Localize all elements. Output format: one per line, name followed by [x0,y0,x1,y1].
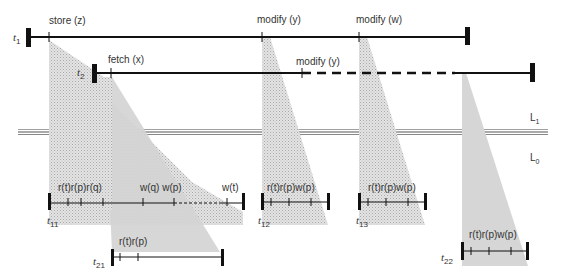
t21-label: t21 [93,255,106,270]
transaction-t1: t1 store (z) modify (y) modify (w) [13,14,470,47]
t13-projection [359,37,425,225]
level-label-l0: L0 [530,152,540,165]
op-fetch-x: fetch (x) [108,54,144,65]
op-modify-y-t1: modify (y) [257,14,301,25]
t12-end-marker [327,193,330,210]
t11-begin-marker [48,193,51,210]
t1-end-marker [465,27,470,45]
level-label-l1: L1 [530,112,540,125]
op-modify-w: modify (w) [356,14,402,25]
t11-ops-reads: r(t)r(p)r(q) [58,182,102,193]
t13-ops: r(t)r(p)w(p) [368,182,416,193]
t21-ops: r(t)r(p) [119,236,147,247]
t22-end-marker [526,242,529,260]
t11-ops-writes: w(q) w(p) [139,182,182,193]
op-modify-y-t2: modify (y) [296,56,340,67]
t22-label: t22 [441,251,454,266]
t1-label: t1 [13,31,21,46]
t2-end-marker [530,63,535,82]
t12-ops: r(t)r(p)w(p) [267,182,315,193]
t21-end-marker [221,249,224,266]
op-store-z: store (z) [49,15,86,26]
t22-ops: r(t)r(p)w(p) [469,229,517,240]
t13-end-marker [424,193,427,210]
t11-end-marker [242,193,245,210]
t11-ops-write-t: w(t) [221,182,239,193]
transaction-diagram: L1 L0 t1 store (z) modify (y) modify (w)… [0,0,566,278]
t21-projection [104,77,220,252]
